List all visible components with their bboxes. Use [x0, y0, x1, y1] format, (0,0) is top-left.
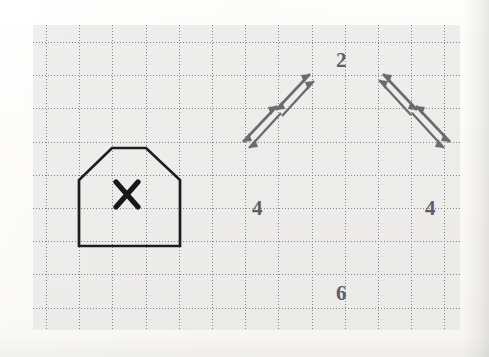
left-diagonal-arrows — [243, 74, 314, 148]
dimension-label-top: 2 — [336, 50, 347, 71]
dimension-label-left: 4 — [252, 198, 263, 219]
figure-layer — [0, 0, 489, 357]
x-marker — [116, 182, 138, 207]
dimension-label-right: 4 — [425, 198, 436, 219]
scanned-page: 2 4 4 6 — [0, 0, 489, 357]
dimension-label-bottom: 6 — [336, 283, 347, 304]
right-diagonal-arrows — [379, 74, 450, 148]
